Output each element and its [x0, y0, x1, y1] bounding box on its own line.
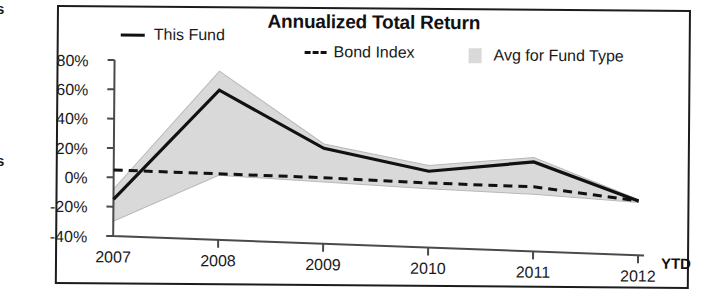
chart-panel: Annualized Total Return This Fund Bond I…	[55, 5, 691, 289]
y-axis-tick-label: 40%	[30, 110, 88, 128]
x-axis-tick-label: 2009	[305, 256, 341, 274]
dashed-line-icon	[305, 50, 327, 53]
y-axis-tick-label: -40%	[29, 227, 87, 245]
plot-area	[95, 59, 651, 239]
y-axis: 80%60%40%20%0%-20%-40%	[21, 59, 88, 236]
x-axis-tick-label: 2007	[95, 248, 131, 266]
x-axis-ytd-label: YTD	[661, 255, 691, 272]
legend-item-bond-index: Bond Index	[305, 43, 415, 62]
solid-line-icon	[121, 33, 145, 36]
x-axis-tick-label: 2011	[516, 263, 551, 281]
y-axis-tick-label: 60%	[30, 81, 88, 99]
band-swatch-icon	[469, 48, 482, 63]
legend-item-this-fund: This Fund	[121, 26, 225, 45]
y-axis-tick-label: 0%	[30, 169, 88, 187]
plot-svg	[95, 59, 651, 239]
series-band-avg-for-fund-type	[113, 70, 639, 225]
x-axis-tick-label: 2010	[410, 259, 446, 277]
legend-label-this-fund: This Fund	[154, 26, 225, 45]
edge-text-fragment-top: s	[0, 0, 4, 17]
y-axis-tick-label: 20%	[30, 139, 88, 157]
legend-label-bond-index: Bond Index	[334, 43, 415, 62]
y-axis-tick-label: -20%	[29, 198, 87, 216]
edge-text-fragment-middle: s	[0, 152, 4, 169]
y-axis-tick-label: 80%	[30, 51, 88, 69]
x-axis: 200720082009201020112012	[95, 239, 650, 271]
x-axis-tick-label: 2008	[200, 252, 236, 270]
x-axis-tick-label: 2012	[620, 267, 656, 285]
